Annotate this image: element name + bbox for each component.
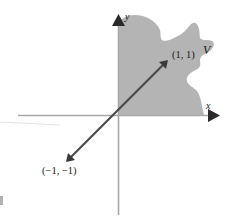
x-axis-label: x (206, 101, 210, 111)
figure-canvas (0, 0, 235, 220)
region-label-V: V (203, 44, 210, 56)
point-label-positive: (1, 1) (172, 50, 195, 61)
page-edge-mark (0, 196, 3, 205)
point-label-negative: (−1, −1) (42, 166, 77, 177)
vector-region-figure: y x V (1, 1) (−1, −1) (0, 0, 235, 220)
scan-streak (0, 122, 60, 125)
y-axis-label: y (125, 12, 129, 22)
